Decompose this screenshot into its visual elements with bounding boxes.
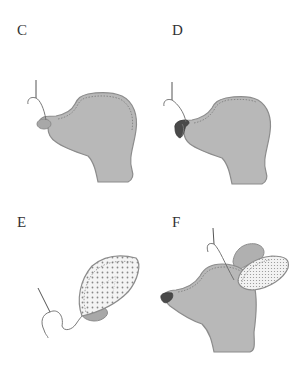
nose-c [37, 119, 51, 129]
needle-and-thread-c [28, 80, 46, 120]
dog-head-c [37, 93, 136, 182]
illustration-canvas [0, 0, 307, 380]
dog-head-f [161, 244, 289, 352]
needle-and-thread-e [38, 288, 82, 338]
dog-head-d [175, 97, 271, 184]
ear-piece-e [79, 256, 139, 321]
needle-and-thread-d [164, 82, 186, 122]
